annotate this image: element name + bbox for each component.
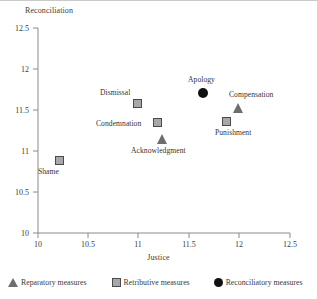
- data-point-condemnation[interactable]: [153, 118, 162, 127]
- y-tick-label-12: 12: [3, 65, 29, 74]
- chart-legend: Reparatory measures Retributive measures…: [0, 272, 317, 292]
- legend-label-retributive: Retributive measures: [124, 278, 190, 287]
- data-point-compensation[interactable]: [233, 103, 243, 113]
- data-label-dismissal: Dismissal: [100, 88, 130, 97]
- data-label-shame: Shame: [38, 167, 59, 176]
- x-tick-label-11: 11: [123, 240, 153, 249]
- data-label-compensation: Compensation: [229, 90, 273, 99]
- legend-label-reconciliatory: Reconciliatory measures: [226, 278, 303, 287]
- data-label-acknowledgment: Acknowledgment: [131, 146, 186, 155]
- data-point-shame[interactable]: [55, 156, 64, 165]
- triangle-marker-icon: [8, 278, 18, 287]
- x-tick-label-11-5: 11.5: [174, 240, 204, 249]
- circle-marker-icon: [214, 278, 223, 287]
- y-tick-label-10-5: 10.5: [3, 188, 29, 197]
- x-tick-label-10-5: 10.5: [73, 240, 103, 249]
- legend-item-reparatory[interactable]: Reparatory measures: [8, 278, 87, 287]
- x-tick-label-12-5: 12.5: [275, 240, 305, 249]
- y-tick-label-11: 11: [3, 147, 29, 156]
- legend-item-retributive[interactable]: Retributive measures: [112, 278, 190, 287]
- data-label-apology: Apology: [188, 75, 215, 84]
- data-point-apology[interactable]: [198, 88, 208, 98]
- y-tick-label-10: 10: [3, 229, 29, 238]
- data-point-dismissal[interactable]: [133, 99, 142, 108]
- data-point-punishment[interactable]: [222, 117, 231, 126]
- x-tick-label-10: 10: [23, 240, 53, 249]
- legend-item-reconciliatory[interactable]: Reconciliatory measures: [214, 278, 303, 287]
- x-tick-label-12: 12: [224, 240, 254, 249]
- data-label-condemnation: Condemnation: [96, 119, 141, 128]
- legend-label-reparatory: Reparatory measures: [21, 278, 87, 287]
- square-marker-icon: [112, 278, 121, 287]
- data-point-acknowledgment[interactable]: [157, 134, 167, 144]
- scatter-chart: Reconciliation Justice 12.5 12 11.5 11 1…: [0, 0, 317, 299]
- y-tick-label-12-5: 12.5: [3, 24, 29, 33]
- data-label-punishment: Punishment: [215, 128, 251, 137]
- y-tick-label-11-5: 11.5: [3, 106, 29, 115]
